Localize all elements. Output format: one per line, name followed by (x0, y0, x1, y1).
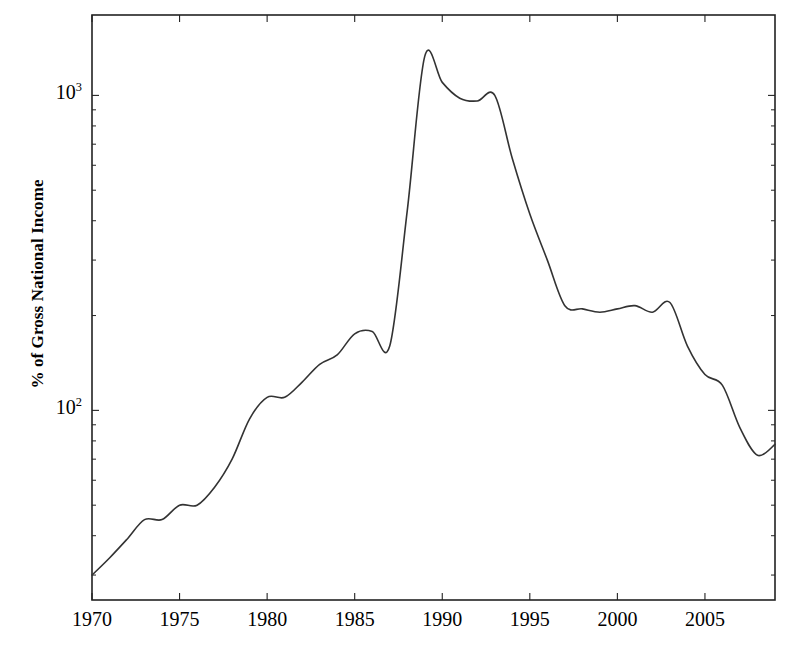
x-tick-label-2005: 2005 (665, 608, 745, 631)
x-tick-label-1995: 1995 (490, 608, 570, 631)
y-tick-label-1e2: 102 (12, 396, 82, 419)
data-series (92, 50, 775, 575)
x-tick-label-2000: 2000 (577, 608, 657, 631)
chart-container: % of Gross National Income 103102 197019… (0, 0, 792, 646)
x-tick-label-1975: 1975 (140, 608, 220, 631)
x-tick-label-1990: 1990 (402, 608, 482, 631)
x-tick-label-1970: 1970 (52, 608, 132, 631)
x-tick-label-1985: 1985 (315, 608, 395, 631)
y-tick-label-1e3: 103 (12, 81, 82, 104)
plot-area (0, 0, 792, 646)
x-tick-label-1980: 1980 (227, 608, 307, 631)
